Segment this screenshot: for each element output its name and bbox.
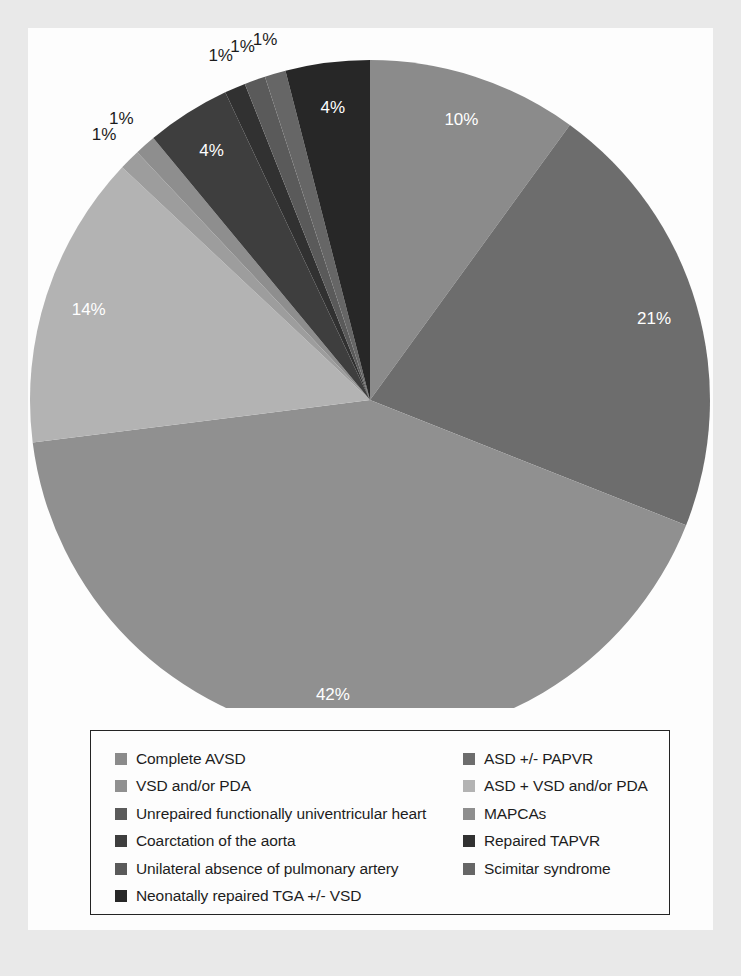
legend-item[interactable]: Unilateral absence of pulmonary artery — [115, 855, 455, 883]
legend-item-label: Unilateral absence of pulmonary artery — [136, 860, 398, 878]
pie-slice-label: 1% — [109, 109, 134, 128]
legend-item[interactable]: ASD + VSD and/or PDA — [463, 773, 673, 801]
pie-chart-svg: 10%21%42%14%1%1%4%1%1%1%4% — [28, 28, 713, 708]
legend-swatch-icon — [463, 780, 475, 792]
legend-swatch-icon — [115, 808, 127, 820]
legend-item[interactable]: Coarctation of the aorta — [115, 828, 455, 856]
legend-item-label: Complete AVSD — [136, 750, 246, 768]
legend-item-label: Repaired TAPVR — [484, 832, 600, 850]
legend-item-label: MAPCAs — [484, 805, 546, 823]
legend-item[interactable]: Repaired TAPVR — [463, 828, 673, 856]
pie-slice-group — [30, 60, 710, 708]
pie-slice-label: 1% — [253, 30, 278, 49]
pie-slice-label: 1% — [208, 46, 233, 65]
legend-item[interactable]: ASD +/- PAPVR — [463, 745, 673, 773]
pie-slice-label: 10% — [444, 110, 478, 129]
legend-box: Complete AVSDVSD and/or PDAUnrepaired fu… — [90, 730, 670, 915]
legend-item[interactable]: MAPCAs — [463, 800, 673, 828]
legend-item-label: Unrepaired functionally univentricular h… — [136, 805, 426, 823]
pie-slice-label: 21% — [637, 309, 671, 328]
legend-swatch-icon — [115, 780, 127, 792]
legend-item-label: VSD and/or PDA — [136, 777, 251, 795]
legend-column-right: ASD +/- PAPVRASD + VSD and/or PDAMAPCAsR… — [463, 745, 673, 883]
legend-item-label: ASD +/- PAPVR — [484, 750, 593, 768]
pie-slice-label: 42% — [316, 685, 350, 704]
legend-swatch-icon — [115, 890, 127, 902]
pie-slice-label: 1% — [230, 37, 255, 56]
legend-item[interactable]: Neonatally repaired TGA +/- VSD — [115, 883, 455, 911]
legend-column-left: Complete AVSDVSD and/or PDAUnrepaired fu… — [115, 745, 455, 910]
figure-panel: 10%21%42%14%1%1%4%1%1%1%4% Complete AVSD… — [28, 28, 713, 930]
legend-item-label: ASD + VSD and/or PDA — [484, 777, 648, 795]
pie-chart: 10%21%42%14%1%1%4%1%1%1%4% — [28, 28, 713, 708]
legend-swatch-icon — [463, 863, 475, 875]
pie-slice-label: 4% — [321, 98, 346, 117]
legend-item-label: Scimitar syndrome — [484, 860, 611, 878]
legend-item[interactable]: VSD and/or PDA — [115, 773, 455, 801]
legend-item[interactable]: Complete AVSD — [115, 745, 455, 773]
legend-swatch-icon — [115, 753, 127, 765]
pie-slice-label: 14% — [72, 300, 106, 319]
legend-swatch-icon — [463, 753, 475, 765]
legend-item[interactable]: Unrepaired functionally univentricular h… — [115, 800, 455, 828]
legend-swatch-icon — [463, 808, 475, 820]
legend-item-label: Neonatally repaired TGA +/- VSD — [136, 887, 361, 905]
legend-swatch-icon — [115, 835, 127, 847]
legend-swatch-icon — [115, 863, 127, 875]
legend-item[interactable]: Scimitar syndrome — [463, 855, 673, 883]
pie-slice-label: 4% — [199, 141, 224, 160]
legend-item-label: Coarctation of the aorta — [136, 832, 296, 850]
legend-swatch-icon — [463, 835, 475, 847]
